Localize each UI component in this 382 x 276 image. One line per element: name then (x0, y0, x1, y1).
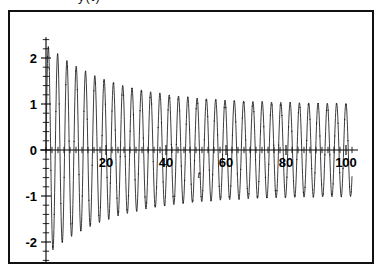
data-point-marker (74, 141, 75, 142)
data-point-marker (103, 81, 104, 82)
data-point-marker (240, 169, 241, 170)
data-point-marker (336, 103, 337, 104)
data-point-marker (349, 186, 350, 187)
data-point-marker (303, 192, 304, 193)
data-point-marker (268, 164, 269, 165)
data-point-marker (334, 135, 335, 136)
x-axis-tick-label: 100 (335, 155, 357, 170)
data-point-marker (111, 111, 112, 112)
data-point-marker (250, 149, 251, 150)
data-point-marker (252, 106, 253, 107)
data-point-marker (121, 94, 122, 95)
data-point-marker (110, 183, 111, 184)
data-point-marker (333, 183, 334, 184)
data-point-marker (201, 196, 202, 197)
data-point-marker (285, 196, 286, 197)
data-point-marker (83, 111, 84, 112)
data-point-marker (55, 111, 56, 112)
data-point-marker (174, 196, 175, 197)
data-point-marker (347, 140, 348, 141)
data-point-marker (298, 112, 299, 113)
data-point-marker (65, 84, 66, 85)
data-point-marker (305, 187, 306, 188)
plot-area: 20406080100210-1-2t (10, 12, 376, 266)
data-point-marker (102, 135, 103, 136)
data-point-marker (75, 71, 76, 72)
data-point-marker (95, 83, 96, 84)
data-point-marker (230, 185, 231, 186)
data-point-marker (97, 149, 98, 150)
data-point-marker (88, 200, 89, 201)
data-point-marker (115, 129, 116, 130)
data-point-marker (281, 115, 282, 116)
data-point-marker (255, 159, 256, 160)
data-point-marker (164, 205, 165, 206)
data-point-marker (184, 180, 185, 181)
data-point-marker (80, 230, 81, 231)
data-point-marker (168, 109, 169, 110)
data-point-marker (286, 177, 287, 178)
data-point-marker (253, 111, 254, 112)
data-point-marker (92, 165, 93, 166)
data-point-marker (275, 190, 276, 191)
data-point-marker (126, 209, 127, 210)
data-point-marker (116, 198, 117, 199)
data-point-marker (260, 130, 261, 131)
data-point-marker (229, 196, 230, 197)
data-point-marker (59, 103, 60, 104)
data-point-marker (215, 99, 216, 100)
data-point-marker (314, 172, 315, 173)
data-point-marker (125, 156, 126, 157)
data-point-marker (52, 246, 53, 247)
data-point-marker (278, 145, 279, 146)
data-point-marker (197, 103, 198, 104)
data-point-marker (47, 56, 48, 57)
data-point-marker (177, 99, 178, 100)
data-point-marker (331, 193, 332, 194)
data-point-marker (291, 131, 292, 132)
data-point-marker (69, 141, 70, 142)
data-point-marker (316, 123, 317, 124)
data-point-marker (290, 102, 291, 103)
data-point-marker (64, 177, 65, 178)
data-point-marker (120, 156, 121, 157)
data-point-marker (128, 195, 129, 196)
data-point-marker (148, 149, 149, 150)
data-point-marker (196, 108, 197, 109)
data-point-marker (300, 107, 301, 108)
data-point-marker (341, 196, 342, 197)
data-point-marker (182, 202, 183, 203)
y-axis-tick-label: -1 (25, 189, 37, 204)
data-point-marker (319, 135, 320, 136)
data-point-marker (163, 182, 164, 183)
x-axis-tick-label: 20 (99, 155, 113, 170)
data-point-marker (209, 170, 210, 171)
y-axis-tick-label: -2 (25, 235, 37, 250)
top-caption-strip: y(t) (0, 0, 382, 9)
data-point-marker (169, 98, 170, 99)
data-curve-group (46, 46, 352, 249)
data-point-marker (276, 190, 277, 191)
data-point-marker (262, 101, 263, 102)
data-point-marker (70, 223, 71, 224)
data-point-marker (206, 100, 207, 101)
data-point-marker (311, 168, 312, 169)
data-point-marker (149, 97, 150, 98)
data-point-marker (324, 154, 325, 155)
data-point-marker (159, 93, 160, 94)
plot-svg: 20406080100210-1-2t (10, 12, 376, 266)
data-point-marker (187, 97, 188, 98)
data-point-marker (247, 188, 248, 189)
data-point-marker (207, 116, 208, 117)
data-point-marker (62, 241, 63, 242)
data-point-marker (154, 205, 155, 206)
data-point-marker (258, 181, 259, 182)
y-axis-tick-label: 1 (30, 97, 37, 112)
data-point-marker (204, 139, 205, 140)
data-point-marker (309, 119, 310, 120)
y-axis-tick-label: 0 (30, 143, 37, 158)
data-point-marker (273, 145, 274, 146)
data-point-marker (306, 140, 307, 141)
data-point-marker (239, 199, 240, 200)
data-point-marker (140, 110, 141, 111)
